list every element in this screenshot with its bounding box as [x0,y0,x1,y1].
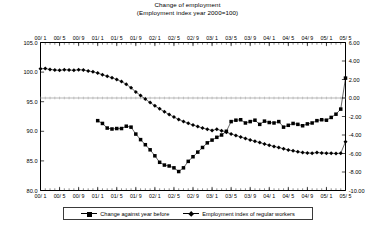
x-tick-label-bottom: 05/ 5 [340,193,352,199]
data-point-marker [48,67,52,71]
y-tick-label-left: 90.0 [27,128,38,134]
data-point-marker [286,148,290,152]
data-point-marker [320,151,324,155]
x-tick-label-bottom: 02/ 1 [149,193,161,199]
x-tick-label-top: 01/ 9 [130,35,142,41]
data-point-marker [253,139,257,143]
data-point-marker [229,120,233,124]
data-point-marker [272,144,276,148]
y-tick-label-right: 0.00 [349,95,360,101]
data-point-marker [263,119,267,123]
data-point-marker [344,140,348,144]
data-point-marker [191,123,195,127]
data-point-marker [291,122,295,126]
diamond-marker-icon [183,210,199,217]
x-tick-label-bottom: 03/ 1 [206,193,218,199]
data-point-marker [39,67,43,71]
x-tick-label-top: 03/ 9 [244,35,256,41]
data-point-marker [67,68,71,72]
data-point-marker [210,138,214,142]
data-point-marker [334,152,338,156]
data-point-marker [287,124,291,128]
data-point-marker [239,135,243,139]
x-tick-label-bottom: 04/ 1 [263,193,275,199]
y-tick-label-left: 100.0 [24,69,38,75]
legend-label: Change against year before [100,211,169,217]
data-point-marker [186,160,190,164]
x-tick-label-top: 01/ 5 [111,35,123,41]
data-point-marker [158,161,162,165]
data-point-marker [229,132,233,136]
data-point-marker [262,142,266,146]
legend-label: Employment index of regular workers [202,211,294,217]
x-tick-label-top: 00/ 9 [73,35,85,41]
data-point-marker [234,118,238,122]
data-point-marker [58,68,62,72]
data-point-marker [182,166,186,170]
data-point-marker [181,120,185,124]
x-tick-label-bottom: 00/ 5 [54,193,66,199]
data-point-marker [291,149,295,153]
data-point-marker [305,151,309,155]
x-tick-label-top: 05/ 1 [321,35,333,41]
data-point-marker [144,143,148,147]
x-tick-label-bottom: 04/ 5 [282,193,294,199]
data-point-marker [301,151,305,155]
data-point-marker [248,120,252,124]
data-point-marker [215,127,219,131]
y-tick-label-left: 95.0 [27,99,38,105]
y-tick-label-left: 105.0 [24,40,38,46]
x-tick-label-top: 01/ 1 [92,35,104,41]
x-tick-label-top: 03/ 1 [206,35,218,41]
data-point-marker [315,119,319,123]
data-point-marker [139,138,143,142]
data-point-marker [325,118,329,122]
data-point-marker [210,128,214,132]
data-point-marker [329,116,333,120]
data-point-marker [220,129,224,133]
x-tick-label-bottom: 01/ 9 [130,193,142,199]
data-point-marker [296,123,300,127]
y-tick-label-right: -2.00 [349,114,362,120]
data-point-marker [91,70,95,74]
data-point-marker [153,104,157,108]
data-point-marker [101,122,105,126]
data-point-marker [100,73,104,77]
data-point-marker [201,146,205,150]
data-point-marker [324,151,328,155]
x-tick-label-top: 04/ 5 [282,35,294,41]
y-tick-label-right: 6.00 [349,40,360,46]
data-point-marker [125,124,129,128]
x-tick-label-bottom: 01/ 5 [111,193,123,199]
data-point-marker [277,120,281,124]
y-tick-label-left: 85.0 [27,158,38,164]
data-point-marker [105,126,109,130]
y-tick-label-right: -10.00 [349,188,365,194]
data-point-marker [43,67,47,71]
x-tick-label-bottom: 03/ 5 [225,193,237,199]
y-tick-label-left: 80.0 [27,188,38,194]
data-point-marker [72,68,76,72]
x-tick-label-top: 03/ 5 [225,35,237,41]
data-point-marker [206,141,210,145]
x-tick-label-bottom: 04/ 9 [301,193,313,199]
data-point-marker [277,146,281,150]
data-point-marker [201,126,205,130]
data-point-marker [306,122,310,126]
x-tick-label-bottom: 02/ 9 [187,193,199,199]
data-point-marker [134,132,138,136]
chart-legend: Change against year before Employment in… [63,207,313,220]
data-point-marker [339,151,343,155]
data-point-marker [96,71,100,75]
x-tick-label-top: 02/ 5 [168,35,180,41]
data-point-marker [320,118,324,122]
data-point-marker [53,68,57,72]
data-point-marker [115,127,119,131]
data-point-marker [215,136,219,140]
data-point-marker [253,118,257,122]
data-point-marker [258,123,262,127]
data-point-marker [172,166,176,170]
data-point-marker [105,74,109,78]
data-point-marker [282,125,286,129]
data-point-marker [148,148,152,152]
